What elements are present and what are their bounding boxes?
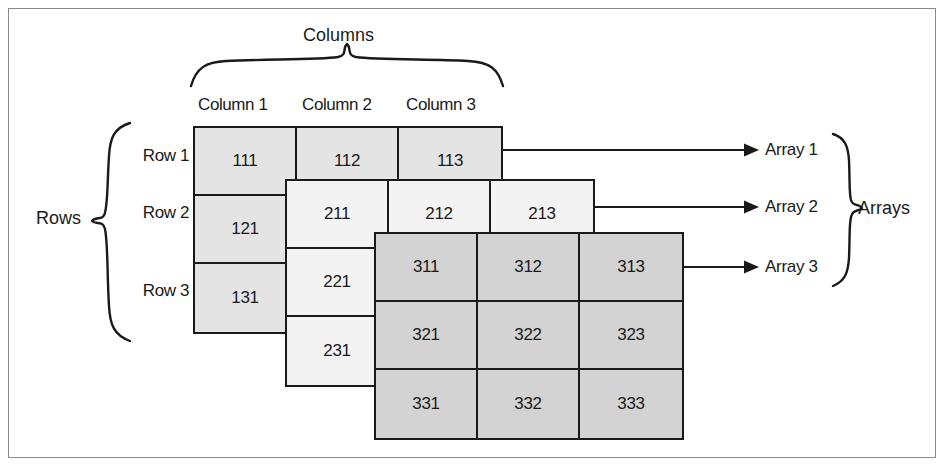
arrays-group-title: Arrays xyxy=(858,198,910,219)
column-header-2: Column 2 xyxy=(302,95,372,115)
row-header-2: Row 2 xyxy=(110,203,189,223)
row-header-3: Row 3 xyxy=(110,281,189,301)
array-1-cell-r3c1: 131 xyxy=(195,264,297,332)
columns-group-title: Columns xyxy=(303,25,374,46)
column-header-1: Column 1 xyxy=(198,95,268,115)
array-1-cell-r1c1: 111 xyxy=(195,128,297,196)
rows-group-title: Rows xyxy=(36,208,81,229)
array-3-cell-r1c1: 311 xyxy=(376,234,478,302)
array-3-cell-r2c2: 322 xyxy=(478,302,580,370)
array-label-3: Array 3 xyxy=(765,257,818,277)
three-dimensional-array-diagram: 111 112 113 121 131 211 212 213 221 231 … xyxy=(0,0,944,470)
array-3-cell-r2c3: 323 xyxy=(580,302,682,370)
array-label-2: Array 2 xyxy=(765,197,818,217)
array-label-1: Array 1 xyxy=(765,140,818,160)
array-3-cell-r3c3: 333 xyxy=(580,370,682,438)
array-3-cell-r1c2: 312 xyxy=(478,234,580,302)
array-3-cell-r1c3: 313 xyxy=(580,234,682,302)
array-3-cell-r3c2: 332 xyxy=(478,370,580,438)
array-3-cell-r3c1: 331 xyxy=(376,370,478,438)
array-1-cell-r2c1: 121 xyxy=(195,196,297,264)
array-3-cell-r2c1: 321 xyxy=(376,302,478,370)
column-header-3: Column 3 xyxy=(406,95,476,115)
array-3-grid: 311 312 313 321 322 323 331 332 333 xyxy=(374,232,684,440)
row-header-1: Row 1 xyxy=(110,146,189,166)
